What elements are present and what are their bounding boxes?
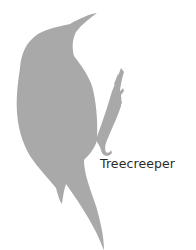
species-caption: Treecreeper	[100, 156, 175, 171]
treecreeper-silhouette	[0, 0, 196, 250]
bird-shape	[17, 13, 124, 250]
